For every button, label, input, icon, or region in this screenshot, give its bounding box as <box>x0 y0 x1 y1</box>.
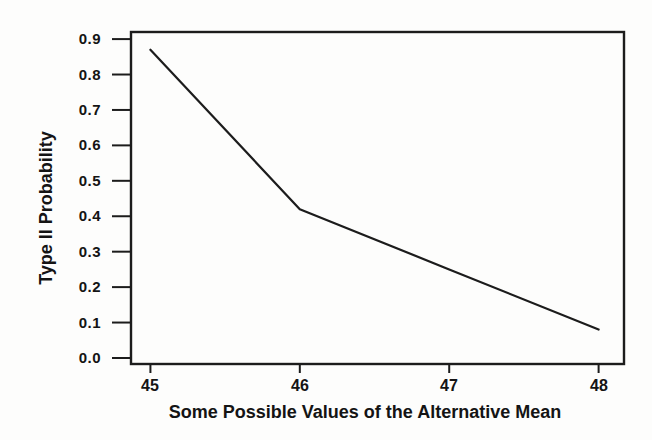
y-tick-label-0.5: 0.5 <box>55 173 101 189</box>
y-tick-label-0.1: 0.1 <box>55 315 101 331</box>
y-tick-label-0.3: 0.3 <box>55 244 101 260</box>
plot-border <box>131 32 624 364</box>
y-tick-label-0.8: 0.8 <box>55 67 101 83</box>
y-tick-label-0.9: 0.9 <box>55 31 101 47</box>
x-tick-label-48: 48 <box>577 377 621 394</box>
type-ii-probability-chart: 0.00.10.20.30.40.50.60.70.80.9 45464748 … <box>0 0 652 440</box>
x-tick-label-47: 47 <box>427 377 471 394</box>
y-tick-label-0.4: 0.4 <box>55 208 101 224</box>
y-tick-label-0.2: 0.2 <box>55 279 101 295</box>
x-tick-label-45: 45 <box>128 377 172 394</box>
y-axis-title: Type II Probability <box>35 123 57 293</box>
y-tick-label-0.6: 0.6 <box>55 137 101 153</box>
y-tick-label-0.7: 0.7 <box>55 102 101 118</box>
x-axis-title: Some Possible Values of the Alternative … <box>85 402 645 423</box>
y-tick-label-0.0: 0.0 <box>55 350 101 366</box>
type-ii-probability-line <box>150 50 598 330</box>
x-tick-label-46: 46 <box>278 377 322 394</box>
